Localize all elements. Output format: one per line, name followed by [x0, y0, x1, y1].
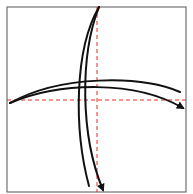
fold-diagram	[0, 0, 193, 194]
diagram-canvas	[0, 0, 193, 194]
